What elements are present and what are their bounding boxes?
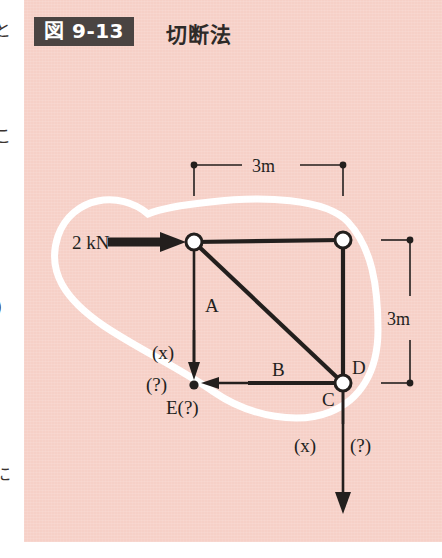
label-member-d: D bbox=[352, 357, 366, 378]
joint-e-node bbox=[189, 380, 198, 389]
label-node-e: E(?) bbox=[166, 397, 199, 419]
label-e-left: (?) bbox=[146, 374, 167, 396]
label-joint-c: C bbox=[322, 389, 335, 410]
label-member-b: B bbox=[272, 359, 285, 380]
label-applied-force: 2 kN bbox=[72, 232, 110, 253]
joint-bottom-right bbox=[335, 375, 351, 391]
member-top-chord bbox=[194, 240, 343, 242]
page-background: と こ ) に 図 9-13 切断法 bbox=[0, 0, 442, 558]
figure-number-badge: 図 9-13 bbox=[34, 17, 134, 46]
label-e-above: (x) bbox=[152, 342, 174, 364]
force-arrow-bottom-down bbox=[335, 424, 351, 514]
label-dimension-horizontal: 3m bbox=[252, 156, 275, 176]
figure-title: 切断法 bbox=[166, 18, 232, 48]
label-member-a: A bbox=[205, 295, 219, 316]
label-dimension-vertical: 3m bbox=[387, 309, 410, 329]
force-arrow-e-down bbox=[188, 330, 200, 380]
joint-top-left bbox=[186, 234, 202, 250]
label-bottom-q: (?) bbox=[350, 435, 371, 457]
label-bottom-x: (x) bbox=[294, 435, 316, 457]
truss-diagram: 2 kN 3m 3m A B C D (x) (?) E(?) (x) (?) bbox=[0, 0, 442, 558]
applied-force-arrow bbox=[108, 232, 186, 252]
joint-top-right bbox=[335, 232, 351, 248]
